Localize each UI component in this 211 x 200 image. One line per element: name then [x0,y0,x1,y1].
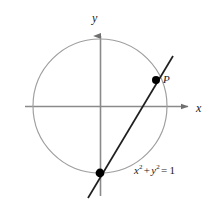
equation-rhs: 1 [168,164,176,176]
circle-equation-label: x2+y2=1 [134,165,176,176]
equation-plus: + [143,164,151,176]
y-axis-label: y [92,12,97,24]
point-p-marker [152,76,160,84]
point-p-label: P [163,74,170,85]
geometry-figure [0,0,211,200]
point-lower-marker [96,169,105,178]
x-axis-label: x [196,102,201,114]
figure-container: y x P x2+y2=1 [0,0,211,200]
